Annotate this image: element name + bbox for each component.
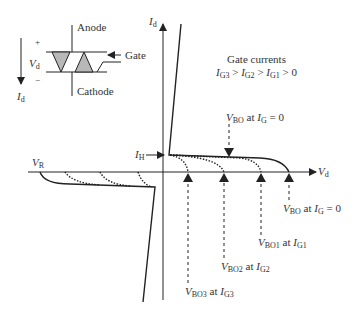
- reverse-voltage-label: VR: [32, 157, 44, 170]
- vbo-top-label: VBO at IG = 0: [226, 112, 284, 125]
- minus-label: −: [35, 76, 40, 85]
- y-axis-label: Id: [149, 16, 157, 29]
- axes: [28, 24, 316, 300]
- vbo2-label: VBO2 at IG2: [221, 261, 270, 274]
- gate-currents-title: Gate currents: [227, 54, 286, 65]
- breakover-arrowheads: [183, 148, 294, 182]
- current-label: Id: [17, 91, 25, 104]
- plus-label: +: [35, 38, 40, 47]
- diode-up-icon: [75, 52, 93, 72]
- holding-current-label: IH: [135, 149, 144, 162]
- forward-curve-ig3: [170, 155, 188, 172]
- breakover-markers: [188, 124, 289, 283]
- x-axis-label: Vd: [318, 166, 329, 179]
- gate-lead: [97, 62, 121, 72]
- vbo1-label: VBO1 at IG1: [258, 237, 307, 250]
- cathode-label: Cathode: [77, 86, 114, 97]
- anode-label: Anode: [77, 22, 106, 33]
- voltage-label: Vd: [29, 58, 40, 71]
- diode-down-icon: [52, 52, 70, 72]
- reverse-curve-ig3: [138, 172, 152, 187]
- gate-currents-relation: IG3 > IG2 > IG1 > 0: [216, 67, 297, 80]
- reverse-curve-ig1: [65, 172, 100, 185]
- vbo-zero-label: VBO at IG = 0: [283, 203, 341, 216]
- triac-characteristic-diagram: [0, 0, 357, 314]
- vbo3-label: VBO3 at IG3: [185, 286, 234, 299]
- gate-label: Gate: [125, 50, 146, 61]
- reverse-curve-ig2: [100, 172, 130, 186]
- reverse-curve-ig0: [40, 172, 155, 302]
